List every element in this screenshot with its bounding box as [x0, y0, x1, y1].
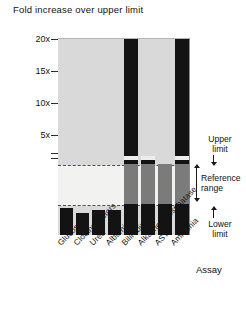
y-tick-label-15x: 15x: [35, 66, 50, 76]
y-tick-upper-limit: [51, 153, 58, 154]
lower-limit-annotation: Lower limit: [197, 219, 243, 239]
x-axis-title: Assay: [196, 264, 222, 275]
bar-axis-break: [175, 156, 189, 160]
y-tick-label-5x: 5x: [40, 130, 50, 140]
bar-axis-break: [124, 156, 138, 160]
bar-axis-break: [141, 156, 155, 160]
y-tick-10x: [51, 103, 58, 104]
y-tick-15x: [51, 71, 58, 72]
y-tick-label-10x: 10x: [35, 98, 50, 108]
upper-limit-annotation: Upper limit: [197, 134, 243, 154]
y-tick-5x: [51, 135, 58, 136]
bar-segment-reference: [141, 164, 155, 204]
fold-increase-bar-chart: Fold increase over upper limit 20x 15x 1…: [0, 0, 246, 323]
y-tick-lower-limit: [51, 158, 58, 159]
plot-inner: [58, 39, 189, 235]
y-axis-title: Fold increase over upper limit: [13, 4, 143, 16]
y-tick-20x: [51, 39, 58, 40]
bar-segment-high: [124, 39, 138, 164]
bar-segment-high: [175, 39, 189, 164]
table-row: [124, 39, 138, 235]
reference-range-annotation: Reference range: [201, 173, 246, 193]
bar-segment-reference: [124, 164, 138, 204]
bar-segment-reference: [158, 164, 172, 204]
y-tick-label-20x: 20x: [35, 34, 50, 44]
